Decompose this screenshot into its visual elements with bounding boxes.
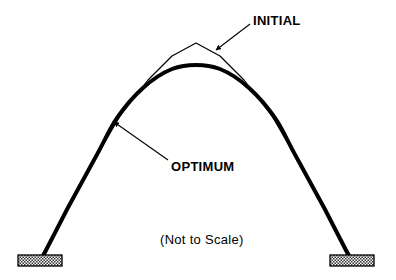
optimum-label: OPTIMUM [171,159,234,174]
initial-arch-curve [40,43,352,258]
arch-optimization-diagram: INITIAL OPTIMUM (Not to Scale) [0,0,396,280]
optimum-leader-line [114,122,168,160]
initial-label: INITIAL [253,13,301,28]
initial-leader-line [216,24,250,50]
right-support-block [330,255,374,266]
not-to-scale-note: (Not to Scale) [160,232,244,247]
left-support-block [18,255,62,266]
